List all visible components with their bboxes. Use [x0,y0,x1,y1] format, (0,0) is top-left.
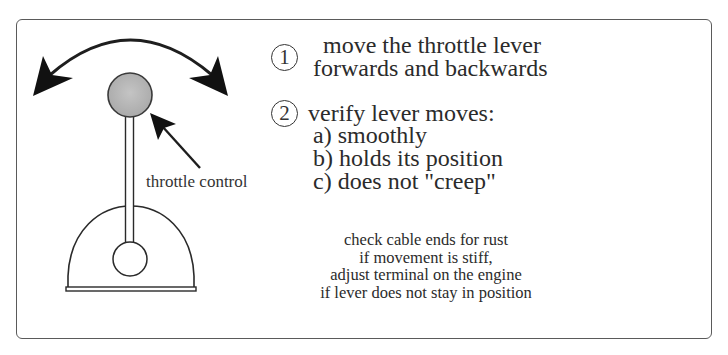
note-line: if lever does not stay in position [276,284,576,302]
housing-base-plate [66,287,196,291]
lever-stem [126,116,134,244]
note-line: check cable ends for rust [276,231,576,249]
step-2-number-badge: 2 [271,100,298,127]
step-1-number-badge: 1 [271,44,298,71]
throttle-control-label: throttle control [146,173,248,190]
step-2-check-item: a) smoothly [313,123,427,147]
maintenance-notes: check cable ends for rust if movement is… [276,231,576,301]
step-2-check-item: b) holds its position [313,146,503,170]
pointer-shaft [162,126,200,168]
step-1-text-line-2: forwards and backwards [313,56,548,80]
pointer-arrow-icon [150,113,200,168]
step-1-text-line-1: move the throttle lever [323,33,541,57]
lever-pivot [113,242,147,276]
note-line: adjust terminal on the engine [276,266,576,284]
motion-arc [50,40,212,75]
throttle-knob [108,73,152,117]
note-line: if movement is stiff, [276,249,576,267]
step-2-check-item: c) does not "creep" [313,169,496,193]
